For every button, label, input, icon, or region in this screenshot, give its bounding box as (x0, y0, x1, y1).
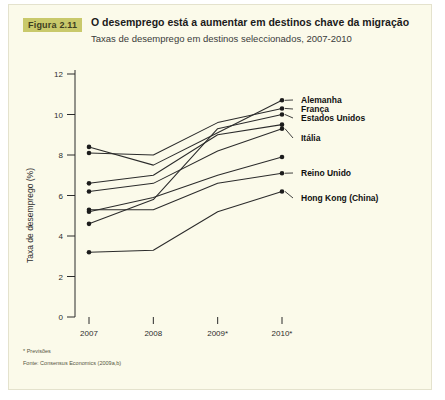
series-point (87, 250, 92, 255)
series-label-leader (285, 115, 293, 119)
y-tick-label: 12 (54, 70, 63, 79)
y-tick-label: 2 (59, 273, 64, 282)
footnote-forecast: * Previsões (23, 348, 51, 354)
series-point (87, 151, 92, 156)
series-line (89, 157, 282, 212)
y-tick-label: 4 (59, 232, 64, 241)
series-label: Hong Kong (China) (301, 193, 379, 203)
series-point (87, 181, 92, 186)
x-tick-label: 2007 (80, 329, 98, 338)
y-tick-label: 0 (59, 313, 64, 322)
y-tick-label: 10 (54, 111, 63, 120)
footnotes: * Previsões Fonte: Consensus Economics (… (21, 345, 321, 375)
y-tick-label: 8 (59, 151, 64, 160)
series-label: Reino Unido (301, 168, 351, 178)
x-tick-label: 2009* (207, 329, 228, 338)
series-line (89, 191, 282, 252)
series-lines (89, 100, 282, 252)
series-point (87, 222, 92, 227)
series-point (280, 155, 285, 160)
y-axis-title: Taxa de desemprego (%) (25, 168, 35, 263)
series-label-leader (285, 191, 293, 198)
y-axis-ticks: 024681012 (54, 70, 75, 322)
y-tick-label: 6 (59, 192, 64, 201)
chart-svg: 024681012 200720082009*2010* AlemanhaFra… (9, 5, 433, 391)
series-point (280, 106, 285, 111)
footnote-source: Fonte: Consensus Economics (2009a,b) (23, 360, 121, 366)
series-point (87, 189, 92, 194)
series-point (280, 126, 285, 131)
series-point (280, 189, 285, 194)
series-label-leaders (285, 100, 293, 198)
series-line (89, 129, 282, 192)
series-point (280, 112, 285, 117)
line-chart: 024681012 200720082009*2010* AlemanhaFra… (9, 5, 433, 391)
series-labels: AlemanhaFrançaEstados UnidosItáliaReino … (301, 95, 379, 203)
series-point (87, 207, 92, 212)
series-line (89, 173, 282, 209)
series-point (280, 98, 285, 103)
series-line (89, 115, 282, 224)
series-point (280, 171, 285, 176)
series-label-leader (285, 108, 293, 109)
series-point (280, 122, 285, 127)
x-tick-label: 2010* (272, 329, 293, 338)
series-point (87, 145, 92, 150)
series-label: Estados Unidos (301, 113, 366, 123)
series-label-leader (285, 129, 293, 138)
figure-panel: Figura 2.11 O desemprego está a aumentar… (8, 4, 432, 390)
x-tick-label: 2008 (144, 329, 162, 338)
series-label: Itália (301, 133, 321, 143)
x-axis-ticks: 200720082009*2010* (80, 317, 292, 338)
